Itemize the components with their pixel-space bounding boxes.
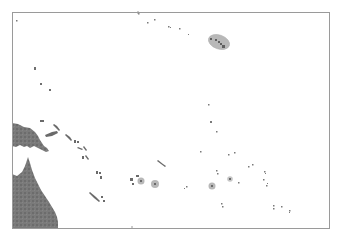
atoll-2: [154, 183, 156, 185]
atoll-3: [211, 185, 213, 187]
atoll-4: [229, 178, 231, 180]
ocean-background: [0, 0, 337, 237]
manus-island: [40, 120, 44, 122]
atoll-1: [140, 180, 142, 182]
map-canvas: [0, 0, 337, 237]
pacific-locator-map: [0, 0, 337, 237]
